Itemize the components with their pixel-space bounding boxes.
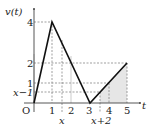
y-tick-4: 4 [27,17,33,28]
x-marker-label: x [59,115,65,126]
y-axis-label: v(t) [5,6,23,17]
velocity-graph: v(t) t O 4 2 1 x−1 1 2 3 4 5 x x+2 [0,0,153,134]
y-axis-arrow-icon [33,8,35,10]
x-plus-2-label: x+2 [91,115,111,126]
x-tick-5: 5 [124,105,130,116]
origin-label: O [22,105,30,116]
x-axis-arrow-icon [139,102,141,104]
x-tick-2: 2 [68,105,74,116]
y-tick-2: 2 [27,58,33,69]
x-tick-1: 1 [49,105,55,116]
y-marker-label: x−1 [13,87,33,98]
x-axis-label: t [142,100,147,111]
